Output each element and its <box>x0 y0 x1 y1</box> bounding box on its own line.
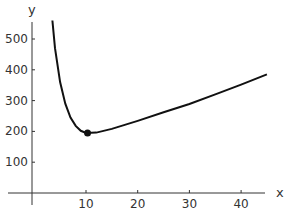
axes <box>8 22 265 205</box>
x-axis-label: x <box>276 185 284 200</box>
x-tick-label: 20 <box>130 197 145 211</box>
y-axis-label: y <box>28 2 36 17</box>
y-tick-label: 100 <box>5 155 28 169</box>
x-tick-label: 30 <box>182 197 197 211</box>
y-tick-label: 300 <box>5 94 28 108</box>
tick-labels: 10203040100200300400500 <box>5 32 249 211</box>
chart: 10203040100200300400500 x y <box>0 0 287 213</box>
x-tick-label: 40 <box>233 197 248 211</box>
y-tick-label: 400 <box>5 63 28 77</box>
minimum-point-marker <box>84 129 91 136</box>
y-tick-label: 200 <box>5 124 28 138</box>
x-tick-label: 10 <box>78 197 93 211</box>
y-tick-label: 500 <box>5 32 28 46</box>
data-curve <box>52 21 267 133</box>
